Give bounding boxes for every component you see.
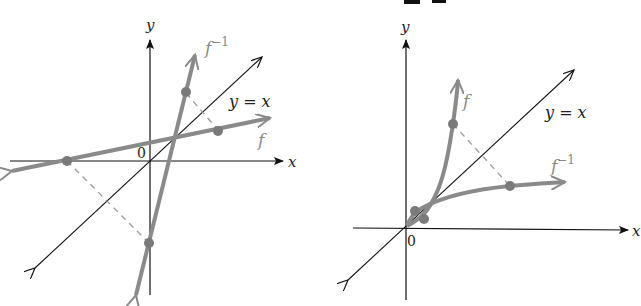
left-point-finv-1 (181, 87, 191, 97)
right-x-axis (353, 228, 628, 230)
right-f-label: f (461, 91, 472, 111)
right-point-finv-2 (410, 206, 420, 216)
right-point-f-2 (419, 214, 429, 224)
right-point-f-1 (448, 119, 458, 129)
left-origin-label: 0 (137, 145, 146, 161)
right-graph: y x 0 y = x f f−1 (348, 18, 641, 300)
right-y-axis-label: y (400, 18, 410, 36)
right-diagonal-label: y = x (544, 103, 587, 122)
left-dashed-connector-1 (186, 93, 218, 130)
left-f-label: f (256, 130, 267, 150)
left-y-axis-label: y (145, 16, 155, 34)
right-dashed-connector (453, 124, 510, 186)
right-f-inverse-curve (407, 182, 565, 226)
left-graph: y x 0 y = x f f−1 (10, 16, 297, 295)
right-origin-label: 0 (407, 233, 416, 249)
right-f-inverse-label: f−1 (549, 153, 575, 176)
right-x-axis-label: x (632, 222, 641, 240)
left-point-f-1 (62, 156, 72, 166)
right-point-finv-1 (505, 181, 515, 191)
inverse-functions-diagram: y x 0 y = x f f−1 y x 0 y = x f f−1 (0, 0, 641, 306)
left-point-finv-2 (144, 238, 154, 248)
left-point-f-2 (213, 126, 223, 136)
left-diagonal-label: y = x (228, 92, 271, 111)
right-diagonal-y-equals-x (348, 70, 574, 280)
left-f-inverse-label: f−1 (203, 35, 229, 58)
cut-off-heading (404, 0, 446, 4)
left-x-axis-label: x (288, 153, 297, 171)
